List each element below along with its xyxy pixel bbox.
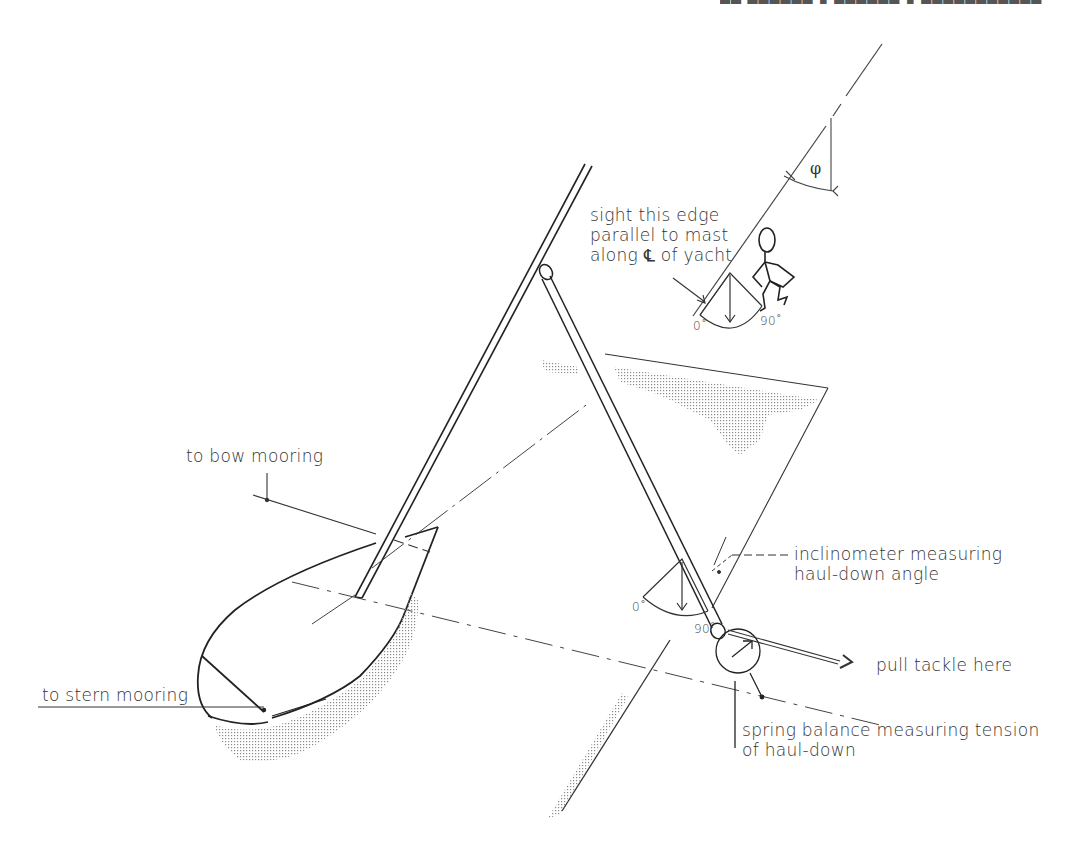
hull-centerline (372, 402, 590, 568)
mast (355, 164, 592, 598)
centerline-stub (312, 595, 355, 624)
phi-angle-label: φ (810, 160, 822, 179)
waterline-shading-left (541, 360, 578, 374)
upper-scale-max: 90˚ (760, 314, 782, 328)
inclinometer-leader (712, 537, 788, 574)
pull-tackle-line (728, 630, 852, 668)
lower-plane-edge (562, 640, 670, 811)
upper-inclinometer (700, 273, 762, 328)
stick-figure-observer (753, 228, 794, 311)
inclinometer-label: inclinometer measuring haul-down angle (794, 544, 1002, 584)
spring-balance-label: spring balance measuring tension of haul… (742, 720, 1040, 760)
bow-mooring-line (253, 473, 430, 552)
sight-edge-label: sight this edge parallel to mast along ℄… (590, 205, 732, 265)
lower-scale-min: 0˚ (632, 600, 646, 614)
waterline-shading (614, 367, 820, 455)
phi-angle-construction (784, 118, 838, 196)
upper-scale-min: 0˚ (693, 319, 707, 333)
pull-tackle-label: pull tackle here (876, 655, 1012, 675)
sight-pointer-arrow (673, 278, 705, 303)
hull-shadow (214, 592, 418, 761)
lower-scale-max: 90˚ (694, 622, 716, 636)
running-header-fragment: ██ ██████ ▪ ██████ ▪ ███████████ (720, 0, 1074, 4)
stern-mooring-point (262, 708, 266, 712)
sight-reference-line (693, 44, 882, 316)
stern-mooring-label: to stern mooring (42, 685, 188, 705)
bow-mooring-label: to bow mooring (186, 446, 323, 466)
lower-plane-shading (548, 693, 628, 818)
lower-inclinometer (643, 559, 708, 616)
